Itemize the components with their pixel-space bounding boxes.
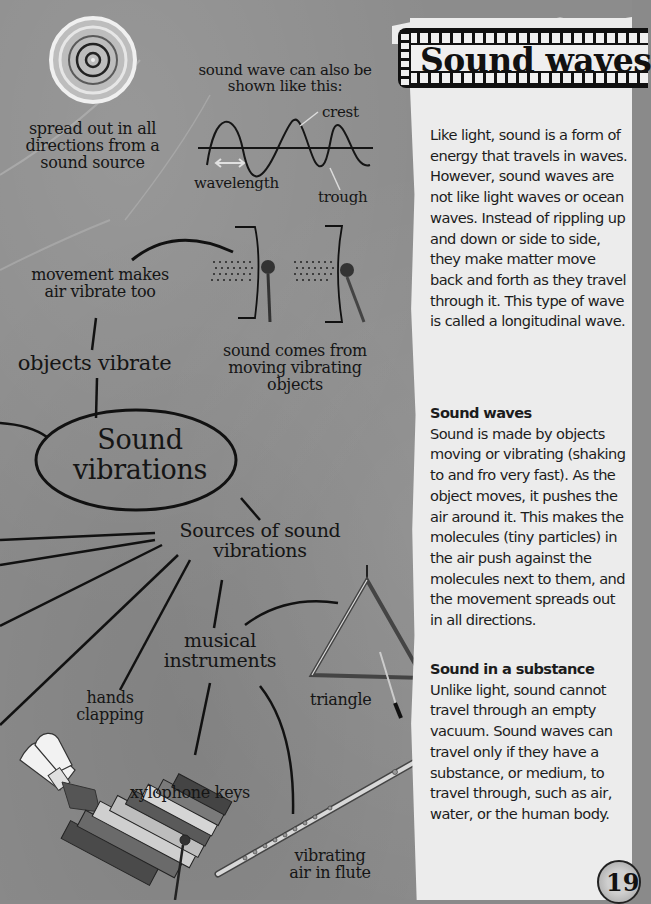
center-topic-line: Sound: [60, 425, 220, 455]
xylophone-label: xylophone keys: [120, 785, 260, 802]
wave-caption: sound wave can also be shown like this:: [185, 63, 385, 95]
article-intro: Like light, sound is a form of energy th…: [430, 125, 630, 332]
center-topic-line: vibrations: [60, 455, 220, 485]
objects-vibrate-label: objects vibrate: [12, 352, 177, 374]
intro-paragraph: Like light, sound is a form of energy th…: [430, 125, 630, 332]
vibrating-object-icon: [294, 226, 364, 322]
hands-clapping-label: hands clapping: [70, 690, 150, 724]
musical-label-line: instruments: [145, 651, 295, 671]
article-section-sound-waves: Sound waves Sound is made by objects mov…: [430, 403, 630, 631]
title-banner: Sound waves: [398, 28, 648, 88]
musical-instruments-label: musical instruments: [145, 631, 295, 671]
section-heading: Sound waves: [430, 403, 630, 424]
flute-label: vibrating air in flute: [280, 848, 380, 882]
wavelength-label: wavelength: [194, 176, 279, 192]
flute-label-line: air in flute: [280, 865, 380, 882]
ripple-caption-line: sound source: [10, 155, 175, 172]
hands-clapping-icon: [20, 733, 100, 812]
sources-label-line: vibrations: [160, 541, 360, 561]
movement-label-line: air vibrate too: [20, 284, 180, 301]
movement-label: movement makes air vibrate too: [20, 267, 180, 301]
section-heading: Sound in a substance: [430, 659, 630, 680]
center-topic-label: Sound vibrations: [60, 425, 220, 484]
vibrating-object-icon: [211, 227, 275, 322]
section-paragraph: Sound is made by objects moving or vibra…: [430, 424, 630, 631]
wave-caption-line: shown like this:: [185, 79, 385, 95]
crest-label: crest: [322, 105, 359, 121]
sources-label: Sources of sound vibrations: [160, 521, 360, 561]
hands-label-line: clapping: [70, 707, 150, 724]
wavelength-arrow-icon: [216, 159, 244, 167]
ripple-icon: [51, 18, 135, 102]
trough-label: trough: [318, 190, 367, 206]
comes-from-label: sound comes from moving vibrating object…: [215, 343, 375, 393]
title-border-left: [401, 31, 411, 85]
triangle-label: triangle: [310, 692, 371, 709]
article-section-sound-in-substance: Sound in a substance Unlike light, sound…: [430, 659, 630, 825]
musical-label-line: musical: [145, 631, 295, 651]
page-number-badge: 19: [597, 860, 641, 904]
comes-from-line: objects: [215, 377, 375, 394]
sources-label-line: Sources of sound: [160, 521, 360, 541]
section-paragraph: Unlike light, sound cannot travel throug…: [430, 680, 630, 825]
page-title: Sound waves: [420, 41, 651, 80]
wave-diagram-icon: [198, 120, 373, 177]
ripple-caption: spread out in all directions from a soun…: [10, 121, 175, 171]
